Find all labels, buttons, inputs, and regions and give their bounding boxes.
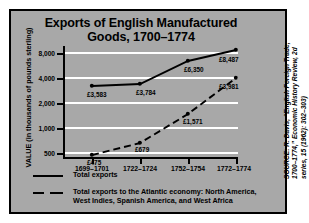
legend-dashed-line-icon-2	[50, 192, 63, 194]
legend-item-atlantic-economy: Total exports to the Atlantic economy: N…	[33, 188, 268, 199]
chart-legend: Total exports Total exports to the Atlan…	[33, 171, 268, 202]
y-tick-label-2000: 2,000	[38, 100, 55, 107]
legend-solid-line-icon	[33, 175, 63, 177]
data-label-total-1: £3,784	[136, 89, 156, 96]
data-label-atlantic-0: £475	[87, 159, 101, 166]
y-tick-label-8000: 8,000	[38, 50, 55, 57]
data-label-atlantic-3: £3,981	[219, 83, 239, 90]
legend-item-total-exports: Total exports	[33, 171, 268, 182]
legend-dashed-line-icon	[33, 192, 44, 194]
chart-title-line-2: Goods, 1700–1774	[33, 30, 249, 44]
chart-title: Exports of English Manufactured Goods, 1…	[33, 16, 249, 44]
source-citation: SOURCE: R. Davis, “English Foreign Trade…	[283, 29, 298, 179]
series-lines	[63, 46, 238, 159]
y-axis-title: VALUE (in thousands of pounds sterling)	[24, 28, 33, 168]
y-tick-label-500: 500	[44, 150, 55, 157]
data-label-total-0: £3,583	[87, 91, 107, 98]
y-tick-label-1000: 1,000	[38, 125, 55, 132]
chart-title-line-1: Exports of English Manufactured	[33, 16, 249, 30]
legend-label-atlantic-economy: Total exports to the Atlantic economy: N…	[73, 187, 268, 205]
chart-figure: Exports of English Manufactured Goods, 1…	[9, 9, 287, 214]
series-total-exports-line	[92, 50, 236, 86]
data-label-total-3: £8,487	[219, 56, 239, 63]
plot-area: 8,000 4,000 2,000 1,000 500 1699–1701 17…	[63, 46, 238, 159]
legend-label-total-exports: Total exports	[73, 170, 118, 179]
data-label-atlantic-1: £679	[135, 146, 149, 153]
series-atlantic-economy-line	[92, 78, 236, 155]
data-label-atlantic-2: £1,571	[183, 118, 203, 125]
y-tick-label-4000: 4,000	[38, 75, 55, 82]
data-label-total-2: £6,350	[184, 66, 204, 73]
